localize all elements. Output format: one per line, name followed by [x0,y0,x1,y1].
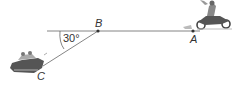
motorcycle-rider-icon [183,0,232,29]
diagram-canvas [0,0,237,86]
label-a: A [190,34,197,45]
label-b: B [95,18,102,29]
point-b [96,29,99,32]
angle-label: 30° [63,33,80,44]
label-c: C [37,71,45,82]
